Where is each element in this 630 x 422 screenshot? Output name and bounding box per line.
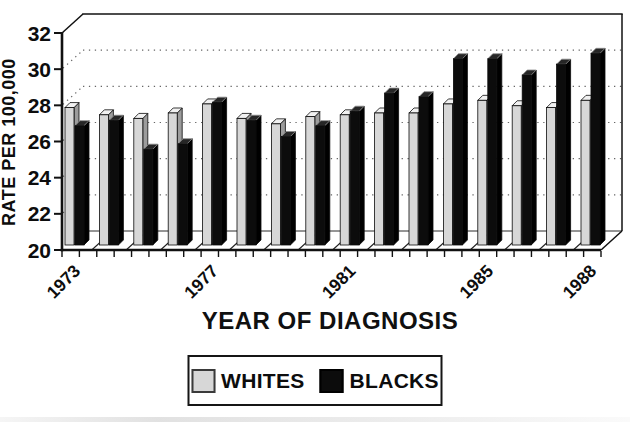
bar-blacks-1978: [247, 120, 256, 245]
bar-whites-1982: [375, 113, 384, 245]
bar-blacks-1983-side: [428, 92, 433, 245]
plot-area: 2022242628303219731977198119851988: [28, 14, 623, 302]
bar-blacks-1978-side: [256, 115, 261, 245]
y-tick-label-24: 24: [28, 166, 52, 189]
blacks-legend-label: BLACKS: [350, 369, 439, 393]
x-axis-title: YEAR OF DIAGNOSIS: [30, 307, 630, 335]
bar-whites-1986: [512, 106, 521, 245]
x-year-label-1988: 1988: [559, 261, 601, 303]
bar-blacks-1982-side: [394, 88, 399, 245]
bar-blacks-1976-side: [187, 139, 192, 245]
blacks-swatch-icon: [320, 369, 344, 393]
bar-whites-1987: [547, 108, 556, 245]
bar-whites-1976: [168, 113, 177, 245]
bar-blacks-1986: [522, 75, 531, 245]
bar-blacks-1979-side: [290, 132, 295, 246]
bar-whites-1981: [340, 115, 349, 245]
bar-whites-1974: [99, 115, 108, 245]
bar-blacks-1982: [385, 93, 394, 245]
bar-blacks-1981-side: [359, 106, 364, 245]
bar-blacks-1985: [488, 59, 497, 245]
bar-blacks-1980-side: [325, 121, 330, 245]
x-year-label-1985: 1985: [455, 261, 497, 303]
bar-blacks-1986-side: [531, 70, 536, 245]
bar-whites-1980: [306, 117, 315, 245]
bar-blacks-1985-side: [497, 54, 502, 245]
y-tick-label-32: 32: [28, 22, 51, 45]
bar-blacks-1974-side: [118, 115, 123, 245]
bar-chart-canvas: 2022242628303219731977198119851988 RATE …: [0, 0, 630, 305]
legend-item-blacks: BLACKS: [320, 369, 439, 393]
bar-blacks-1975: [144, 149, 153, 245]
bar-blacks-1981: [350, 111, 359, 245]
bar-blacks-1984: [453, 59, 462, 245]
bar-blacks-1987: [557, 64, 566, 245]
bar-blacks-1973: [75, 126, 84, 245]
bar-blacks-1974: [109, 120, 118, 245]
bar-blacks-1980: [316, 126, 325, 245]
x-year-label-1973: 1973: [43, 261, 85, 303]
bar-blacks-1976: [178, 144, 187, 245]
x-year-label-1977: 1977: [180, 261, 222, 303]
bar-blacks-1977: [213, 102, 222, 245]
x-year-label-1981: 1981: [318, 261, 360, 303]
bar-whites-1983: [409, 113, 418, 245]
y-tick-label-26: 26: [28, 130, 51, 153]
bar-whites-1977: [203, 104, 212, 245]
bar-blacks-1988-side: [600, 48, 605, 245]
bar-whites-1984: [443, 104, 452, 245]
bar-whites-1979: [271, 124, 280, 245]
bar-blacks-1975-side: [153, 144, 158, 245]
bar-blacks-1977-side: [222, 97, 227, 245]
bar-whites-1973: [65, 108, 74, 245]
chart-page: 2022242628303219731977198119851988 RATE …: [0, 0, 630, 422]
scan-artifact: [0, 417, 630, 422]
bar-whites-1978: [237, 118, 246, 245]
whites-legend-label: WHITES: [221, 369, 304, 393]
legend-box: WHITES BLACKS: [188, 355, 443, 406]
bar-whites-1985: [478, 100, 487, 245]
whites-swatch-icon: [191, 369, 215, 393]
y-tick-label-30: 30: [28, 58, 51, 81]
bar-blacks-1983: [419, 97, 428, 245]
legend-item-whites: WHITES: [191, 369, 304, 393]
y-tick-label-28: 28: [28, 94, 52, 117]
bar-blacks-1988: [591, 53, 600, 245]
bar-whites-1975: [134, 118, 143, 245]
y-tick-label-22: 22: [28, 202, 51, 225]
y-tick-label-20: 20: [28, 239, 51, 262]
bar-blacks-1987-side: [566, 59, 571, 245]
bar-blacks-1979: [281, 137, 290, 246]
y-axis-title: RATE PER 100,000: [0, 58, 19, 226]
bar-blacks-1973-side: [84, 121, 89, 245]
bar-blacks-1984-side: [462, 54, 467, 245]
bar-whites-1988: [581, 100, 590, 245]
